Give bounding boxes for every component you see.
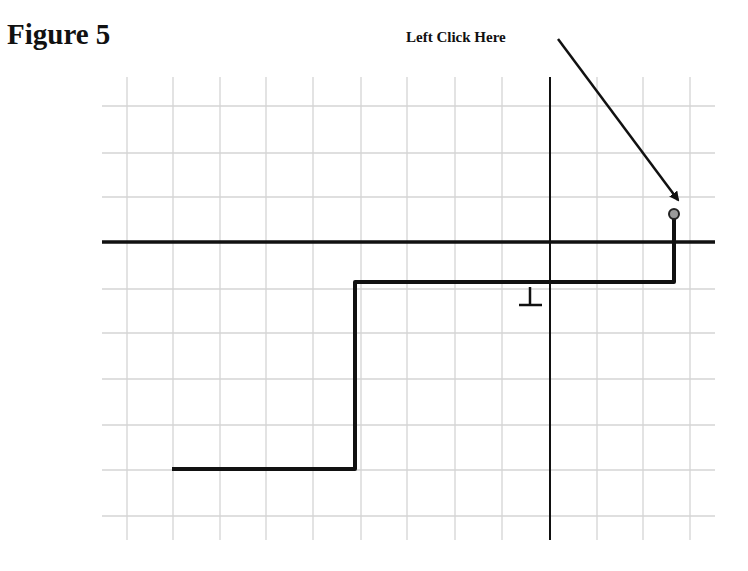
- endpoint-handle-icon[interactable]: [669, 209, 679, 219]
- step-waveform-line[interactable]: [172, 219, 674, 469]
- diagram-canvas: [0, 0, 748, 571]
- callout-arrow: [558, 39, 678, 200]
- ground-symbol-icon: [519, 287, 542, 305]
